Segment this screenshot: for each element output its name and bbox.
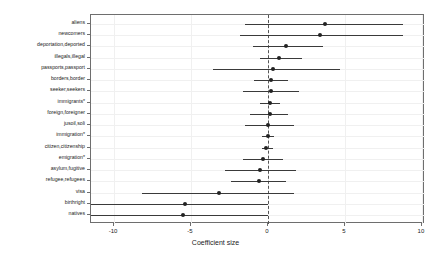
y-axis-tick [87,79,90,80]
coefficient-point [269,89,273,93]
y-axis-label: refugee,refugees [46,178,85,183]
x-axis-tick-label: 0 [265,228,268,234]
y-axis-label: emigration* [59,155,85,160]
coefficient-point [266,134,270,138]
coefficient-point [269,78,273,82]
y-axis-label: natives [69,211,85,216]
coefficient-point [266,123,270,127]
coefficient-point [257,179,261,183]
x-axis-tick-label: 10 [418,228,425,234]
plot-area [90,14,424,223]
y-axis-label: passports,passport [41,65,85,70]
y-axis-tick [87,102,90,103]
y-axis-label: birthright [65,200,85,205]
coefficient-point [318,33,322,37]
coefficient-point [271,67,275,71]
y-axis-tick [87,124,90,125]
y-axis-tick [87,57,90,58]
y-axis-label: foreign,foreigner [47,110,85,115]
y-axis-tick [87,214,90,215]
x-axis-tick-label: 5 [342,228,345,234]
y-axis-tick [87,34,90,35]
x-axis-tick-label: -10 [109,228,118,234]
x-axis-tick-label: -5 [187,228,192,234]
gridline-horizontal [91,103,425,104]
y-axis-label: jusoil,soli [64,122,85,127]
coefficient-point [183,202,187,206]
y-axis-label: immigration* [56,133,85,138]
gridline-horizontal [91,148,425,149]
coefficient-point [323,22,327,26]
forest-plot-figure: aliensnewcomersdeportation,deportedilleg… [0,0,431,256]
gridline-horizontal [91,136,425,137]
x-axis-tick [421,223,422,226]
coefficient-point [284,44,288,48]
confidence-interval-line [91,204,268,205]
coefficient-point [268,112,272,116]
y-axis-label: illegals,illegal [54,54,85,59]
y-axis-tick [87,113,90,114]
y-axis-tick [87,90,90,91]
confidence-interval-line [91,215,268,216]
y-axis-label: aliens [71,20,85,25]
y-axis-tick [87,169,90,170]
y-axis-label: deportation,deported [37,43,85,48]
x-axis-title: Coefficient size [0,239,431,246]
y-axis-label: visa [76,189,85,194]
y-axis-tick [87,45,90,46]
y-axis-tick [87,192,90,193]
y-axis-tick [87,23,90,24]
y-axis-label: borders,border [51,77,85,82]
y-axis-label: seeker,seekers [50,88,85,93]
y-axis-label: newcomers [58,32,85,37]
x-axis-tick [113,223,114,226]
coefficient-point [258,168,262,172]
confidence-interval-line [260,58,302,59]
confidence-interval-line [253,46,324,47]
x-axis-tick [267,223,268,226]
y-axis-label: asylum,fugitive [51,166,85,171]
y-axis-tick [87,147,90,148]
x-axis-tick [190,223,191,226]
y-axis-tick [87,68,90,69]
y-axis-tick [87,180,90,181]
y-axis-label: immigrants* [58,99,85,104]
y-axis-label: citizen,citizenship [45,144,85,149]
coefficient-point [277,56,281,60]
coefficient-point [217,191,221,195]
y-axis-tick [87,135,90,136]
coefficient-point [261,157,265,161]
x-axis-tick [344,223,345,226]
y-axis-tick [87,203,90,204]
y-axis-tick [87,158,90,159]
coefficient-point [181,213,185,217]
confidence-interval-line [213,69,341,70]
gridline-horizontal [91,58,425,59]
coefficient-point [268,101,272,105]
